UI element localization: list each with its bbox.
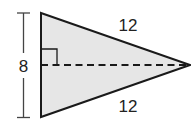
height-dimension: 8 — [17, 13, 30, 118]
height-label: 8 — [19, 57, 28, 76]
top-side-label: 12 — [119, 16, 138, 35]
triangle-diagram: 8 12 12 — [0, 0, 191, 122]
bottom-side-label: 12 — [119, 97, 138, 116]
